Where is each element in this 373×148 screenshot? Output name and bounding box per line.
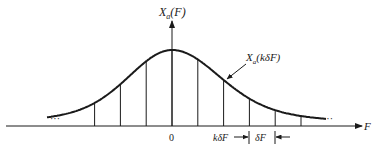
spectrum-diagram: Xa(F) Xa(kδF) ··· ··· F 0 kδF δF: [0, 0, 373, 148]
spacing-label: δF: [255, 132, 267, 143]
right-ellipsis: ···: [323, 113, 333, 124]
x-axis-label: F: [363, 120, 371, 132]
spectrum-curve: [47, 50, 326, 119]
curve-label-arg: (kδF): [256, 51, 280, 64]
sample-label: kδF: [213, 132, 229, 143]
curve-pointer-arrow: [227, 64, 246, 79]
left-ellipsis: ···: [50, 113, 60, 124]
curve-label: Xa(kδF): [245, 51, 281, 66]
origin-label: 0: [169, 132, 174, 143]
y-axis-label: Xa(F): [158, 5, 186, 21]
y-label-arg: (F): [170, 5, 185, 19]
